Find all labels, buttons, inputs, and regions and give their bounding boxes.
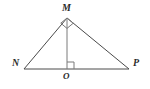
- segment-MN: [24, 18, 67, 69]
- vertex-label-N: N: [12, 58, 19, 68]
- triangle-figure: [0, 0, 150, 89]
- diagram-canvas: M N P O: [0, 0, 150, 89]
- segment-MP: [67, 18, 129, 69]
- vertex-label-O: O: [63, 71, 70, 81]
- vertex-label-M: M: [62, 3, 71, 13]
- vertex-label-P: P: [133, 58, 139, 68]
- right-angle-at-O-icon: [67, 62, 74, 69]
